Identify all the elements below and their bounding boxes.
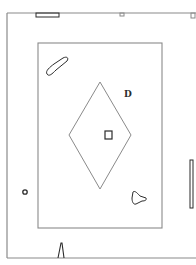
sketch-canvas: D [0, 0, 196, 265]
background [0, 0, 196, 265]
crescent-mark: D [124, 89, 132, 99]
